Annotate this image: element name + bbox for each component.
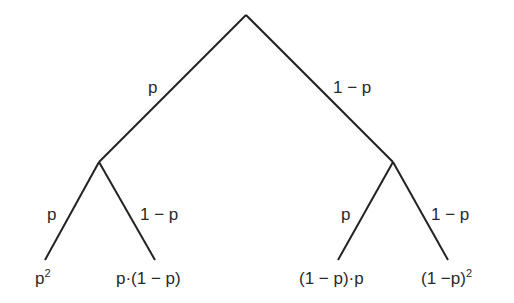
outcome-ll-exponent: 2 <box>44 267 50 279</box>
tree-lines <box>0 0 514 303</box>
outcome-rr-exponent: 2 <box>466 267 472 279</box>
label-root-left: p <box>148 79 157 96</box>
outcome-1-minus-p-times-p: (1 − p)·p <box>299 270 364 287</box>
outcome-rr-base: (1 −p) <box>421 269 466 288</box>
label-left-left: p <box>47 206 56 223</box>
label-right-right: 1 − p <box>431 206 469 223</box>
outcome-p-squared: p2 <box>35 270 51 287</box>
label-root-right: 1 − p <box>333 79 371 96</box>
probability-tree-diagram: p 1 − p p 1 − p p 1 − p p2 p·(1 − p) (1 … <box>0 0 514 303</box>
outcome-p-times-1-minus-p: p·(1 − p) <box>116 270 181 287</box>
label-right-left: p <box>341 206 350 223</box>
outcome-1-minus-p-squared: (1 −p)2 <box>421 270 472 287</box>
label-left-right: 1 − p <box>140 206 178 223</box>
branch-root-left <box>99 15 246 162</box>
